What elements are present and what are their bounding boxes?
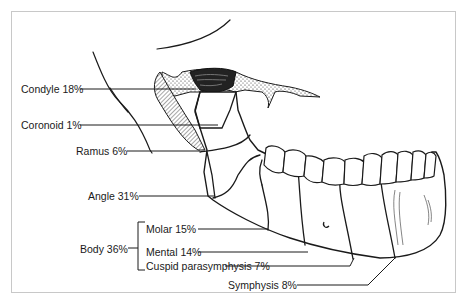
label-mental: Mental 14% (146, 246, 201, 258)
label-molar: Molar 15% (146, 223, 196, 235)
label-symphysis: Symphysis 8% (228, 279, 297, 291)
label-cuspid-parasymphysis: Cuspid parasymphysis 7% (146, 260, 270, 272)
label-body: Body 36% (80, 243, 128, 255)
label-condyle: Condyle 18% (21, 83, 83, 95)
label-coronoid: Coronoid 1% (21, 119, 82, 131)
label-ramus: Ramus 6% (76, 145, 127, 157)
label-angle: Angle 31% (88, 190, 139, 202)
